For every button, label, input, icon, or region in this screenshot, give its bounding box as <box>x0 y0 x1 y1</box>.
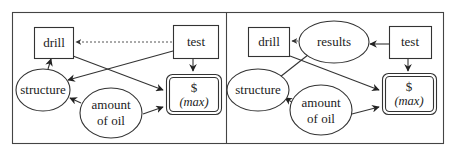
node-test: test <box>390 27 432 59</box>
node-label: test <box>401 34 419 49</box>
node-label-line1: amount <box>92 97 131 112</box>
node-value: $ (max) <box>383 74 437 115</box>
node-structure: structure <box>16 69 70 111</box>
node-label-line2: of oil <box>97 113 125 128</box>
node-test: test <box>174 26 219 59</box>
node-value: $ (max) <box>167 75 222 115</box>
value-qualifier: (max) <box>179 95 208 109</box>
node-label-line2: of oil <box>307 111 335 126</box>
node-label: drill <box>43 35 65 50</box>
value-qualifier: (max) <box>394 94 423 108</box>
node-structure: structure <box>227 69 289 111</box>
node-amount-of-oil: amount of oil <box>290 85 352 135</box>
node-label: results <box>317 34 351 49</box>
node-drill: drill <box>35 28 74 59</box>
value-symbol: $ <box>191 80 198 95</box>
node-label: structure <box>235 82 281 97</box>
node-label: drill <box>258 34 280 49</box>
node-results: results <box>299 21 369 63</box>
node-label-line1: amount <box>302 95 341 110</box>
node-label: test <box>187 34 205 49</box>
node-label: structure <box>20 82 66 97</box>
node-amount-of-oil: amount of oil <box>80 88 142 138</box>
chance-ellipse <box>290 85 352 135</box>
node-drill: drill <box>249 28 290 57</box>
value-symbol: $ <box>406 79 413 94</box>
influence-diagrams: drill test $ (max) structure amount of o… <box>0 0 452 153</box>
